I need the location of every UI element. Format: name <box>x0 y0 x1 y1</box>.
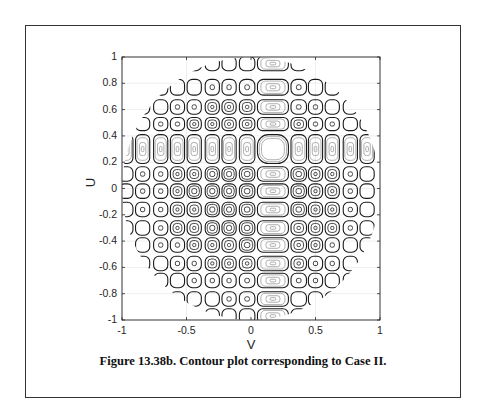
y-tick-label: -0.4 <box>77 234 117 246</box>
y-tick-label: -0.2 <box>77 208 117 220</box>
x-tick-label: 1 <box>360 324 400 336</box>
contour-lines <box>119 56 374 323</box>
grid-lines <box>122 57 380 320</box>
x-tick-label: -1 <box>102 324 142 336</box>
y-tick-label: 0.4 <box>77 129 117 141</box>
x-tick-label: 0.5 <box>296 324 336 336</box>
y-tick-label: 0.6 <box>77 103 117 115</box>
y-tick-label: 0.2 <box>77 155 117 167</box>
y-tick-label: 1 <box>77 50 117 62</box>
y-axis-label: U <box>83 173 98 193</box>
figure-caption: Figure 13.38b. Contour plot correspondin… <box>25 354 461 369</box>
y-tick-label: -0.6 <box>77 260 117 272</box>
x-tick-label: -0.5 <box>167 324 207 336</box>
y-tick-label: -0.8 <box>77 287 117 299</box>
x-axis-label: V <box>241 337 261 352</box>
y-tick-label: 0.8 <box>77 76 117 88</box>
x-tick-label: 0 <box>231 324 271 336</box>
